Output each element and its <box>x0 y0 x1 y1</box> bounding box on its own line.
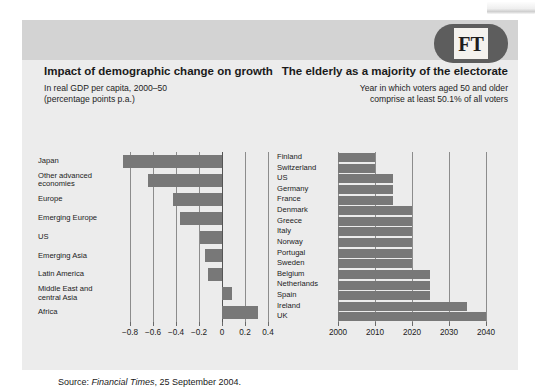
bar-france <box>338 196 393 205</box>
category-label-africa: Africa <box>38 308 114 317</box>
bar-uk <box>338 312 486 321</box>
category-label-other-advanced-economies: Other advanced economies <box>38 172 114 189</box>
bar-belgium <box>338 270 430 279</box>
category-label-france: France <box>277 195 335 204</box>
category-label-norway: Norway <box>277 238 335 247</box>
ft-logo-text: FT <box>454 28 488 59</box>
category-label-spain: Spain <box>277 291 335 300</box>
axis-tick-02 <box>245 322 246 326</box>
axis-tick-02 <box>199 322 200 326</box>
axis-tick-2040 <box>486 322 487 326</box>
bar-norway <box>338 238 412 247</box>
chart-left-title: Impact of demographic change on growth <box>36 64 282 79</box>
axis-tick-08 <box>130 322 131 326</box>
source-prefix: Source: <box>58 377 89 387</box>
axis-tick-label-2030: 2030 <box>429 328 469 337</box>
gridline-04 <box>268 152 269 322</box>
axis-tick-label-2040: 2040 <box>466 328 506 337</box>
bar-japan <box>123 155 222 168</box>
bar-middle-east-and-central-asia <box>222 287 232 300</box>
category-label-italy: Italy <box>277 227 335 236</box>
category-label-greece: Greece <box>277 217 335 226</box>
category-label-latin-america: Latin America <box>38 270 114 279</box>
bar-emerging-europe <box>180 212 222 225</box>
axis-tick-2030 <box>449 322 450 326</box>
bar-latin-america <box>208 268 222 281</box>
category-label-sweden: Sweden <box>277 259 335 268</box>
axis-tick-2020 <box>412 322 413 326</box>
axis-tick-04 <box>268 322 269 326</box>
bar-portugal <box>338 249 412 258</box>
category-label-uk: UK <box>277 312 335 321</box>
axis-tick-2010 <box>375 322 376 326</box>
bar-switzerland <box>338 164 375 173</box>
chart-left-subtitle-line-2: (percentage points p.a.) <box>36 94 282 105</box>
category-label-finland: Finland <box>277 153 335 162</box>
bar-us <box>200 231 222 244</box>
bar-italy <box>338 227 412 236</box>
chart-impact-of-demographic-change: Impact of demographic change on growth I… <box>36 64 282 344</box>
chart-left-subtitle-line-1: In real GDP per capita, 2000–50 <box>36 83 282 94</box>
bar-emerging-asia <box>205 249 222 262</box>
bar-other-advanced-economies <box>148 174 222 187</box>
axis-tick-label-2020: 2020 <box>392 328 432 337</box>
axis-tick-label-2010: 2010 <box>355 328 395 337</box>
bar-netherlands <box>338 281 430 290</box>
gridline-02 <box>245 152 246 322</box>
bar-finland <box>338 153 375 162</box>
chart-elderly-majority-electorate: The elderly as a majority of the elector… <box>276 64 514 344</box>
category-label-ireland: Ireland <box>277 302 335 311</box>
financial-times-logo: FT <box>434 24 508 63</box>
chart-right-subtitle-line-1: Year in which voters aged 50 and older <box>276 83 514 94</box>
axis-tick-04 <box>176 322 177 326</box>
chart-left-plot: JapanOther advanced economiesEuropeEmerg… <box>36 152 282 342</box>
gridline-2040 <box>486 152 487 322</box>
gridline-08 <box>130 152 131 322</box>
bar-greece <box>338 217 412 226</box>
bar-denmark <box>338 206 412 215</box>
bar-europe <box>173 193 222 206</box>
category-label-middle-east-and-central-asia: Middle East and central Asia <box>38 285 114 302</box>
charts-container: Impact of demographic change on growth I… <box>22 64 518 344</box>
source-note: Source: Financial Times, 25 September 20… <box>58 377 241 387</box>
bar-africa <box>222 306 258 319</box>
category-label-germany: Germany <box>277 185 335 194</box>
source-rest: , 25 September 2004. <box>155 377 242 387</box>
bar-us <box>338 174 393 183</box>
chart-right-plot: FinlandSwitzerlandUSGermanyFranceDenmark… <box>276 152 514 342</box>
gridline-2030 <box>449 152 450 322</box>
axis-tick-0 <box>222 322 223 326</box>
category-label-emerging-europe: Emerging Europe <box>38 214 114 223</box>
category-label-us: US <box>277 174 335 183</box>
category-label-belgium: Belgium <box>277 270 335 279</box>
category-label-portugal: Portugal <box>277 249 335 258</box>
chart-right-subtitle-line-2: comprise at least 50.1% of all voters <box>276 94 514 105</box>
bar-spain <box>338 291 430 300</box>
bar-germany <box>338 185 393 194</box>
top-edge-artifact <box>487 2 535 14</box>
axis-tick-2000 <box>338 322 339 326</box>
category-label-netherlands: Netherlands <box>277 280 335 289</box>
ft-graphic-panel: FT Impact of demographic change on growt… <box>22 20 518 370</box>
category-label-switzerland: Switzerland <box>277 164 335 173</box>
source-publication: Financial Times <box>92 377 155 387</box>
axis-tick-label-2000: 2000 <box>318 328 358 337</box>
axis-tick-06 <box>153 322 154 326</box>
chart-right-title: The elderly as a majority of the elector… <box>276 64 514 79</box>
category-label-denmark: Denmark <box>277 206 335 215</box>
category-label-emerging-asia: Emerging Asia <box>38 252 114 261</box>
category-label-us: US <box>38 233 114 242</box>
category-label-japan: Japan <box>38 157 114 166</box>
bar-ireland <box>338 302 467 311</box>
category-label-europe: Europe <box>38 195 114 204</box>
bar-sweden <box>338 259 412 268</box>
